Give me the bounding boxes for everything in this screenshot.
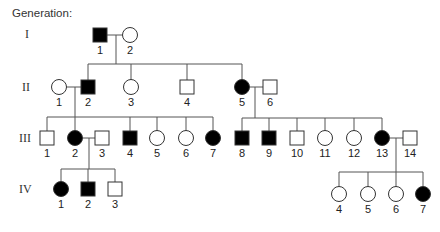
individual-III-10: 10	[290, 131, 304, 159]
individual-II-2: 2	[81, 80, 95, 108]
affected-male-square-icon	[93, 28, 107, 42]
individual-II-5: 5	[235, 80, 250, 109]
individual-number: 1	[58, 198, 64, 210]
individual-I-1: 1	[93, 28, 107, 56]
individual-number: 3	[99, 147, 105, 159]
individual-III-4: 4	[123, 131, 137, 159]
individual-number: 2	[72, 147, 78, 159]
individual-II-6: 6	[263, 80, 277, 108]
affected-male-square-icon	[235, 131, 249, 145]
individual-IV-2: 2	[81, 182, 95, 210]
individual-number: 1	[56, 96, 62, 108]
unaffected-female-circle-icon	[124, 80, 139, 95]
unaffected-female-circle-icon	[347, 131, 362, 146]
individual-III-14: 14	[403, 131, 417, 159]
unaffected-female-circle-icon	[150, 131, 165, 146]
affected-female-circle-icon	[235, 80, 250, 95]
individual-III-9: 9	[262, 131, 276, 159]
affected-female-circle-icon	[68, 131, 83, 146]
individual-number: 5	[365, 203, 371, 215]
individual-III-8: 8	[235, 131, 249, 159]
individual-number: 8	[239, 147, 245, 159]
affected-female-circle-icon	[206, 131, 221, 146]
unaffected-male-square-icon	[95, 131, 109, 145]
unaffected-female-circle-icon	[123, 28, 138, 43]
individual-III-12: 12	[347, 131, 362, 160]
unaffected-female-circle-icon	[52, 80, 67, 95]
individual-number: 10	[291, 147, 303, 159]
individual-number: 6	[267, 96, 273, 108]
unaffected-male-square-icon	[108, 182, 122, 196]
individual-number: 1	[97, 44, 103, 56]
unaffected-male-square-icon	[290, 131, 304, 145]
individual-number: 7	[420, 203, 426, 215]
individual-number: 2	[85, 198, 91, 210]
individual-II-3: 3	[124, 80, 139, 109]
individual-number: 4	[127, 147, 133, 159]
unaffected-male-square-icon	[180, 80, 194, 94]
individual-number: 5	[154, 147, 160, 159]
individual-number: 2	[85, 96, 91, 108]
individual-number: 7	[210, 147, 216, 159]
unaffected-female-circle-icon	[361, 187, 376, 202]
individual-IV-5: 5	[361, 187, 376, 216]
unaffected-male-square-icon	[263, 80, 277, 94]
individual-II-4: 4	[180, 80, 194, 108]
affected-male-square-icon	[262, 131, 276, 145]
affected-female-circle-icon	[375, 131, 390, 146]
individual-number: 6	[183, 147, 189, 159]
individual-number: 11	[319, 147, 330, 159]
individual-number: 3	[112, 198, 118, 210]
individual-III-7: 7	[206, 131, 221, 160]
individual-IV-1: 1	[54, 182, 69, 211]
individual-III-3: 3	[95, 131, 109, 159]
individual-III-5: 5	[150, 131, 165, 160]
individual-number: 3	[128, 96, 134, 108]
individual-IV-7: 7	[416, 187, 431, 216]
individual-III-2: 2	[68, 131, 83, 160]
individual-III-1: 1	[40, 131, 54, 159]
pedigree-chart: Generation: I II III IV 1212345612345678…	[0, 0, 440, 232]
unaffected-female-circle-icon	[179, 131, 194, 146]
individual-number: 1	[44, 147, 50, 159]
affected-female-circle-icon	[54, 182, 69, 197]
individual-number: 4	[336, 203, 342, 215]
individual-number: 14	[404, 147, 416, 159]
individual-number: 4	[184, 96, 190, 108]
affected-male-square-icon	[123, 131, 137, 145]
individual-number: 13	[376, 147, 388, 159]
individual-III-6: 6	[179, 131, 194, 160]
affected-male-square-icon	[81, 80, 95, 94]
individual-II-1: 1	[52, 80, 67, 109]
individual-number: 2	[127, 44, 133, 56]
individual-IV-6: 6	[389, 187, 404, 216]
pedigree-diagram: 1212345612345678910111213141234567	[0, 0, 440, 232]
affected-male-square-icon	[81, 182, 95, 196]
individual-number: 12	[348, 147, 360, 159]
individual-I-2: 2	[123, 28, 138, 57]
unaffected-male-square-icon	[40, 131, 54, 145]
unaffected-female-circle-icon	[318, 131, 333, 146]
unaffected-male-square-icon	[403, 131, 417, 145]
individual-III-11: 11	[318, 131, 333, 160]
affected-female-circle-icon	[416, 187, 431, 202]
individual-III-13: 13	[375, 131, 390, 160]
individual-number: 6	[393, 203, 399, 215]
individual-number: 9	[266, 147, 272, 159]
unaffected-female-circle-icon	[389, 187, 404, 202]
individual-IV-4: 4	[332, 187, 347, 216]
individual-number: 5	[239, 96, 245, 108]
unaffected-female-circle-icon	[332, 187, 347, 202]
individual-IV-3: 3	[108, 182, 122, 210]
